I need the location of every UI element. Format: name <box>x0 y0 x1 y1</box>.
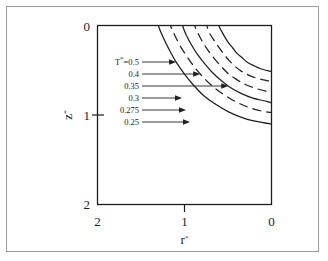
y-tick-label-2: 2 <box>84 197 91 212</box>
y-tick-label-1: 1 <box>84 108 91 123</box>
contour-label-value: 0.275 <box>120 105 139 115</box>
x-axis-title: r* <box>181 232 189 247</box>
contour-label: 0.35 <box>124 81 139 91</box>
contour-label-value: 0.3 <box>128 93 139 103</box>
contour-label: 0.275 <box>120 105 139 115</box>
y-axis-title-star: * <box>62 110 70 114</box>
contour-chart: 0 1 2 2 1 0 r* z* T*=0.50.40.350.30.2750… <box>0 0 328 261</box>
contour-leaders <box>142 59 228 125</box>
contour-leader-arrowhead <box>183 119 190 125</box>
contour-label-value: 0.25 <box>124 117 139 127</box>
x-axis-title-star: * <box>185 234 189 242</box>
y-tick-label-0: 0 <box>84 19 91 34</box>
contour-label: 0.3 <box>128 93 139 103</box>
contour-label-value: =0.5 <box>124 57 139 67</box>
x-tick-label-1: 1 <box>181 214 188 229</box>
contour-label: 0.25 <box>124 117 139 127</box>
y-axis-title: z* <box>60 110 75 120</box>
contour-label: T*=0.5 <box>115 55 139 67</box>
contour-label-value: 0.35 <box>124 81 139 91</box>
figure-root: 0 1 2 2 1 0 r* z* T*=0.50.40.350.30.2750… <box>0 0 328 261</box>
contour-curve <box>219 20 277 71</box>
svg-text:r*: r* <box>181 232 189 247</box>
contour-leader-arrowhead <box>179 107 186 113</box>
contour-label-value: 0.4 <box>128 69 139 79</box>
svg-text:z*: z* <box>60 110 75 120</box>
contour-label-group: T*=0.50.40.350.30.2750.25 <box>115 55 140 127</box>
contour-curves <box>158 20 277 124</box>
contour-curve <box>207 20 277 81</box>
x-tick-label-0: 0 <box>268 214 275 229</box>
contour-leader-arrowhead <box>175 95 182 101</box>
x-tick-label-2: 2 <box>94 214 101 229</box>
contour-label: 0.4 <box>128 69 139 79</box>
contour-curve <box>158 20 277 124</box>
